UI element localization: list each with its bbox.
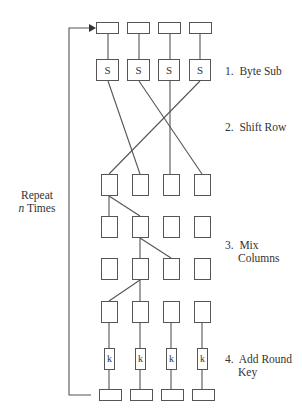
shift-line-1 (108, 81, 140, 174)
mix-cell-b2 (132, 216, 149, 238)
key-box-2: k (135, 348, 146, 370)
step-number: 4. (225, 353, 234, 365)
step-label-shift-row: 2. Shift Row (225, 121, 286, 134)
state-output-3 (161, 389, 184, 401)
state-output-4 (192, 389, 215, 401)
mix-cell-b3 (163, 216, 180, 238)
step-number: 2. (225, 121, 234, 133)
shift-output-4 (194, 174, 211, 196)
sbox-2: S (127, 59, 150, 81)
key-box-1: k (104, 348, 115, 370)
step-text: Mix (239, 239, 258, 251)
state-input-4 (189, 22, 212, 34)
state-output-2 (130, 389, 153, 401)
mix-cell-b4 (194, 216, 211, 238)
repeat-line2: Times (24, 202, 55, 214)
sbox-3: S (158, 59, 180, 81)
mix-cell-c3 (163, 258, 180, 280)
arrow-head-icon (89, 24, 96, 32)
step-text: Byte Sub (239, 65, 282, 77)
key-box-3: k (166, 348, 177, 370)
mix-output-2 (132, 301, 149, 323)
shift-output-2 (132, 174, 149, 196)
sbox-4: S (189, 59, 211, 81)
mix-output-1 (101, 301, 118, 323)
step-text: Add Round (239, 353, 292, 365)
step-text-line2: Columns (225, 252, 280, 264)
mix-cell-b1 (101, 216, 118, 238)
step-text: Shift Row (239, 121, 286, 133)
mix-cell-c1 (101, 258, 118, 280)
mix-output-4 (194, 301, 211, 323)
key-box-4: k (197, 348, 208, 370)
mix-cell-c4 (194, 258, 211, 280)
repeat-loop-line (69, 28, 91, 395)
repeat-line1: Repeat (21, 189, 53, 201)
repeat-label: Repeat n Times (13, 189, 61, 215)
state-input-1 (96, 22, 119, 34)
step-text-line2: Key (225, 366, 257, 378)
mix-cell-c2 (132, 258, 149, 280)
step-number: 1. (225, 65, 234, 77)
shift-line-4 (109, 81, 200, 174)
shift-output-1 (101, 174, 118, 196)
step-number: 3. (225, 239, 234, 251)
mix-output-3 (163, 301, 180, 323)
shift-output-3 (163, 174, 180, 196)
state-input-3 (158, 22, 181, 34)
state-input-2 (127, 22, 150, 34)
step-label-mix-columns: 3. Mix Columns (225, 239, 280, 265)
step-label-byte-sub: 1. Byte Sub (225, 65, 282, 78)
step-label-add-round-key: 4. Add Round Key (225, 353, 292, 379)
sbox-1: S (96, 59, 119, 81)
state-output-1 (99, 389, 122, 401)
